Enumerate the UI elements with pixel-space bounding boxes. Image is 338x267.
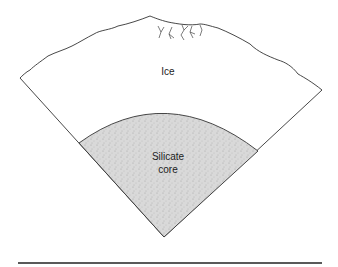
core-label-line1: Silicate <box>140 151 196 163</box>
core-label-line2: core <box>140 164 196 176</box>
interior-cross-section-diagram <box>0 0 338 267</box>
ice-label: Ice <box>150 66 186 78</box>
